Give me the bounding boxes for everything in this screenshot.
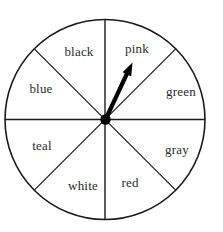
sector-label-green: green — [166, 84, 196, 100]
spinner-wheel: black pink blue green teal gray white re… — [0, 0, 223, 232]
sector-label-blue: blue — [29, 81, 52, 97]
sector-label-gray: gray — [165, 142, 189, 158]
sector-label-red: red — [121, 175, 138, 191]
spinner-pivot-dot — [100, 114, 110, 124]
sector-label-white: white — [68, 178, 98, 194]
sector-label-pink: pink — [125, 41, 149, 57]
sector-label-black: black — [64, 44, 93, 60]
sector-label-teal: teal — [32, 138, 52, 154]
spinner-wheel-graphic — [0, 0, 223, 232]
